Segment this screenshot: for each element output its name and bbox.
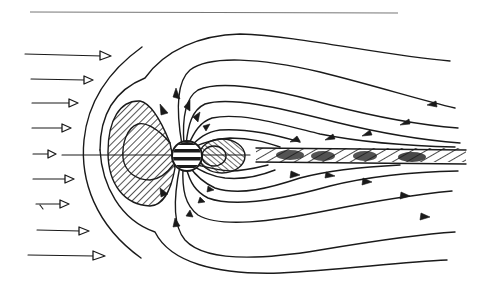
magnetosphere-diagram — [0, 0, 490, 294]
field-lines-south — [160, 164, 458, 257]
solar-wind-arrow-icon — [37, 227, 89, 235]
plasma-sheet — [256, 148, 466, 164]
solar-wind-arrow-icon — [31, 76, 93, 84]
top-rule — [30, 12, 398, 13]
solar-wind-arrow-icon — [33, 175, 74, 183]
earth-icon — [170, 141, 204, 171]
solar-wind-arrow-icon — [36, 200, 69, 209]
solar-wind-arrow-icon — [28, 251, 105, 260]
dayside-radiation-belt — [108, 101, 175, 206]
field-lines-north — [160, 60, 460, 148]
solar-wind-arrow-icon — [32, 99, 78, 107]
solar-wind-arrow-icon — [33, 150, 56, 158]
solar-wind-arrow-icon — [32, 124, 71, 132]
nightside-radiation-belt — [199, 139, 245, 173]
solar-wind-arrow-icon — [25, 51, 111, 60]
